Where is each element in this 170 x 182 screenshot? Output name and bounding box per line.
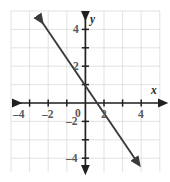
y-tick-label-2: 2 — [73, 61, 79, 73]
x-tick-label-2: 2 — [101, 109, 107, 121]
y-axis-label: y — [90, 14, 95, 26]
graph-figure: –4 –2 0 2 4 4 2 –2 –4 y x — [0, 0, 170, 182]
y-tick-label-4: 4 — [73, 24, 79, 36]
y-tick-label--2: –2 — [66, 116, 78, 128]
x-tick-label--2: –2 — [42, 109, 54, 121]
coordinate-plane-svg — [0, 0, 170, 182]
x-tick-label--4: –4 — [13, 109, 25, 121]
x-tick-label-4: 4 — [138, 109, 144, 121]
y-tick-label--4: –4 — [66, 153, 78, 165]
x-axis-label: x — [151, 85, 157, 97]
